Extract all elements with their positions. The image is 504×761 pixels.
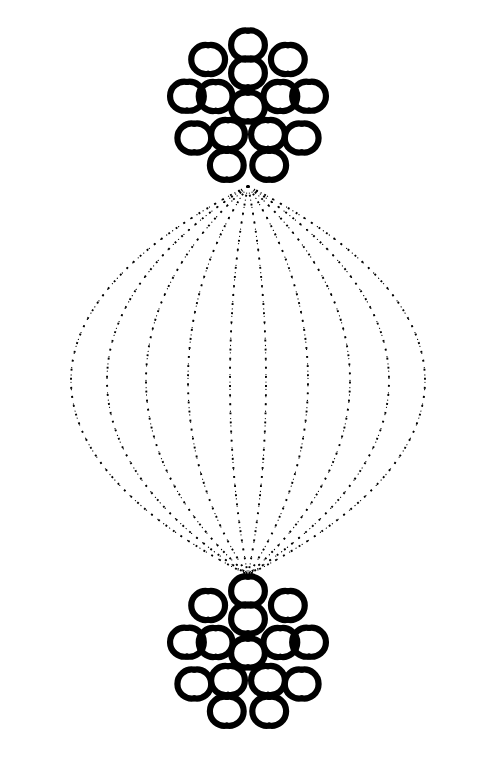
figure-canvas: Ornamental double-rosette diagram Two id… — [0, 0, 504, 761]
ornament-svg — [0, 0, 504, 761]
background — [0, 0, 504, 761]
